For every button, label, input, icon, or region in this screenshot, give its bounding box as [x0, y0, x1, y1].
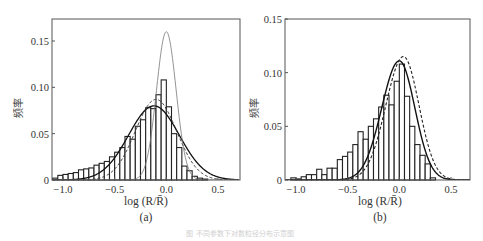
histogram-bar: [125, 136, 130, 180]
histogram-bar: [182, 166, 187, 180]
histogram-bar: [306, 175, 311, 180]
panel-b-ylabel: 频率: [248, 98, 260, 118]
panel-b-label: (b): [373, 211, 387, 224]
histogram-bar: [405, 96, 410, 180]
y-tick-label: 0.15: [31, 36, 49, 47]
histogram-bar: [420, 155, 425, 180]
y-tick-label: 0.10: [264, 68, 282, 79]
histogram-bar: [172, 134, 177, 180]
histogram-bar: [337, 160, 342, 180]
panel-b-xlabel: log (R/R̄): [358, 195, 402, 208]
y-tick-label: 0.10: [31, 82, 49, 93]
y-tick-label: 0: [44, 175, 49, 186]
histogram-bar: [322, 175, 327, 180]
histogram-bar: [389, 105, 394, 180]
histogram-bar: [130, 139, 135, 180]
histogram-bar: [415, 145, 420, 180]
histogram-bar: [399, 64, 404, 180]
histogram-bars: [53, 80, 208, 180]
histogram-bar: [317, 169, 322, 180]
histogram-bar: [312, 175, 317, 180]
histogram-bar: [358, 132, 363, 180]
figure: −1.0−0.50.00.500.050.100.15 −1.0−0.50.00…: [0, 0, 483, 241]
histogram-bar: [89, 168, 94, 180]
x-tick-label: −0.5: [338, 184, 357, 195]
histogram-bar: [384, 95, 389, 180]
histogram-bar: [327, 168, 332, 180]
histogram-bar: [187, 171, 192, 180]
histogram-bar: [177, 148, 182, 180]
x-tick-label: −1.0: [53, 184, 72, 195]
x-tick-label: 0.5: [444, 184, 457, 195]
x-tick-label: −0.5: [105, 184, 124, 195]
y-tick-label: 0.05: [264, 121, 282, 132]
figure-caption: 图 不同参数下对数粒径分布示意图: [186, 229, 293, 238]
histogram-bar: [348, 152, 353, 180]
panel-a-xlabel: log (R/R̄): [124, 195, 168, 208]
histogram-bar: [410, 126, 415, 180]
histogram-bar: [343, 156, 348, 180]
histogram-bar: [135, 126, 140, 180]
histogram-bar: [161, 80, 166, 180]
x-tick-label: 0.5: [211, 184, 224, 195]
histogram-bar: [394, 81, 399, 180]
y-tick-label: 0.05: [31, 129, 49, 140]
histogram-bar: [332, 168, 337, 180]
panel-b-histogram: −1.0−0.50.00.500.050.100.15: [264, 14, 472, 195]
panel-a-histogram: −1.0−0.50.00.500.050.100.15: [31, 19, 240, 195]
panel-a-ylabel: 频率: [12, 98, 24, 118]
x-tick-label: 0.0: [393, 184, 406, 195]
histogram-bar: [120, 148, 125, 180]
y-tick-label: 0.15: [264, 14, 282, 25]
panel-a-label: (a): [140, 211, 153, 224]
x-tick-label: −1.0: [286, 184, 305, 195]
y-tick-label: 0: [277, 175, 282, 186]
histogram-bar: [425, 164, 430, 180]
x-tick-label: 0.0: [160, 184, 173, 195]
